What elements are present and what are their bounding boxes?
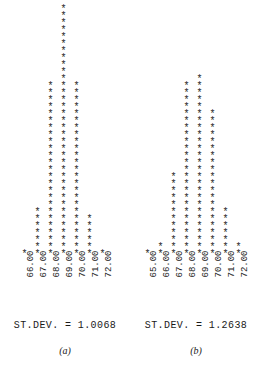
tick-label: 71.00 <box>219 264 232 312</box>
panel-caption-a: (a) <box>0 345 130 356</box>
tick-label: 71.00 <box>83 264 96 312</box>
tick-label: 72.00 <box>232 264 245 312</box>
tick-label: 68.00 <box>44 264 57 312</box>
tick-label: 68.00 <box>180 264 193 312</box>
tick-label: 67.00 <box>31 264 44 312</box>
plot-area-b: ****************************************… <box>131 0 261 258</box>
tick-label: 70.00 <box>70 264 83 312</box>
tick-label-text: 72.00 <box>103 250 116 277</box>
histogram-figure: ****************************************… <box>0 0 261 366</box>
plot-area-a: ****************************************… <box>0 0 130 258</box>
tick-label: 66.00 <box>18 264 31 312</box>
asterisk-columns-b: ****************************************… <box>141 76 245 258</box>
stdev-text-a: ST.DEV. = 1.0068 <box>0 320 130 331</box>
asterisk-columns-a: ****************************************… <box>18 6 109 258</box>
histogram-column: ************************* <box>70 83 83 258</box>
tick-label-text: 72.00 <box>239 250 252 277</box>
tick-label: 70.00 <box>206 264 219 312</box>
histogram-column: ************************************ <box>57 6 70 258</box>
panel-caption-b: (b) <box>131 345 261 356</box>
histogram-panel-a: ****************************************… <box>0 0 130 366</box>
tick-label: 69.00 <box>57 264 70 312</box>
histogram-column: ************************* <box>180 83 193 258</box>
histogram-panel-b: ****************************************… <box>131 0 261 366</box>
histogram-column: ************ <box>167 174 180 258</box>
tick-label: 65.00 <box>141 264 154 312</box>
tick-label: 66.00 <box>154 264 167 312</box>
stdev-text-b: ST.DEV. = 1.2638 <box>131 320 261 331</box>
histogram-column: ************************** <box>193 76 206 258</box>
tick-label: 69.00 <box>193 264 206 312</box>
tick-labels-a: 66.0067.0068.0069.0070.0071.0072.00 <box>18 264 109 312</box>
tick-labels-b: 65.0066.0067.0068.0069.0070.0071.0072.00 <box>141 264 245 312</box>
histogram-column: ********************* <box>206 111 219 258</box>
tick-label: 72.00 <box>96 264 109 312</box>
histogram-column: ************************* <box>44 83 57 258</box>
tick-label: 67.00 <box>167 264 180 312</box>
